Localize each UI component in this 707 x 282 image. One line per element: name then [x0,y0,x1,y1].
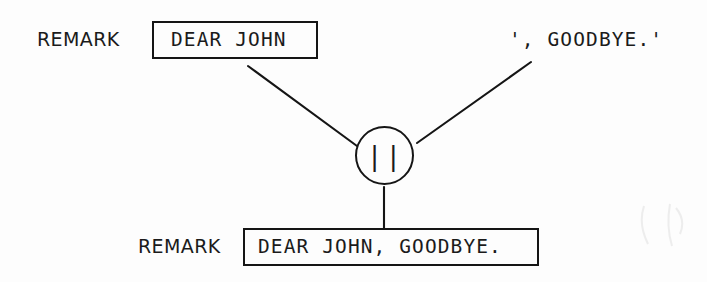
scan-artifact [636,200,694,252]
result-text: DEAR JOHN, GOODBYE. [258,237,502,257]
remark-keyword-bottom: REMARK [138,237,221,256]
concat-operator-symbol: || [355,126,414,185]
remark-keyword-top: REMARK [37,30,120,49]
diagram-canvas: REMARK DEAR JOHN ', GOODBYE.' || REMARK … [0,0,707,282]
left-operand-text: DEAR JOHN [171,30,287,50]
connector-right-branch [417,62,531,143]
right-operand-text: ', GOODBYE.' [509,30,663,50]
connector-left-branch [248,66,357,146]
